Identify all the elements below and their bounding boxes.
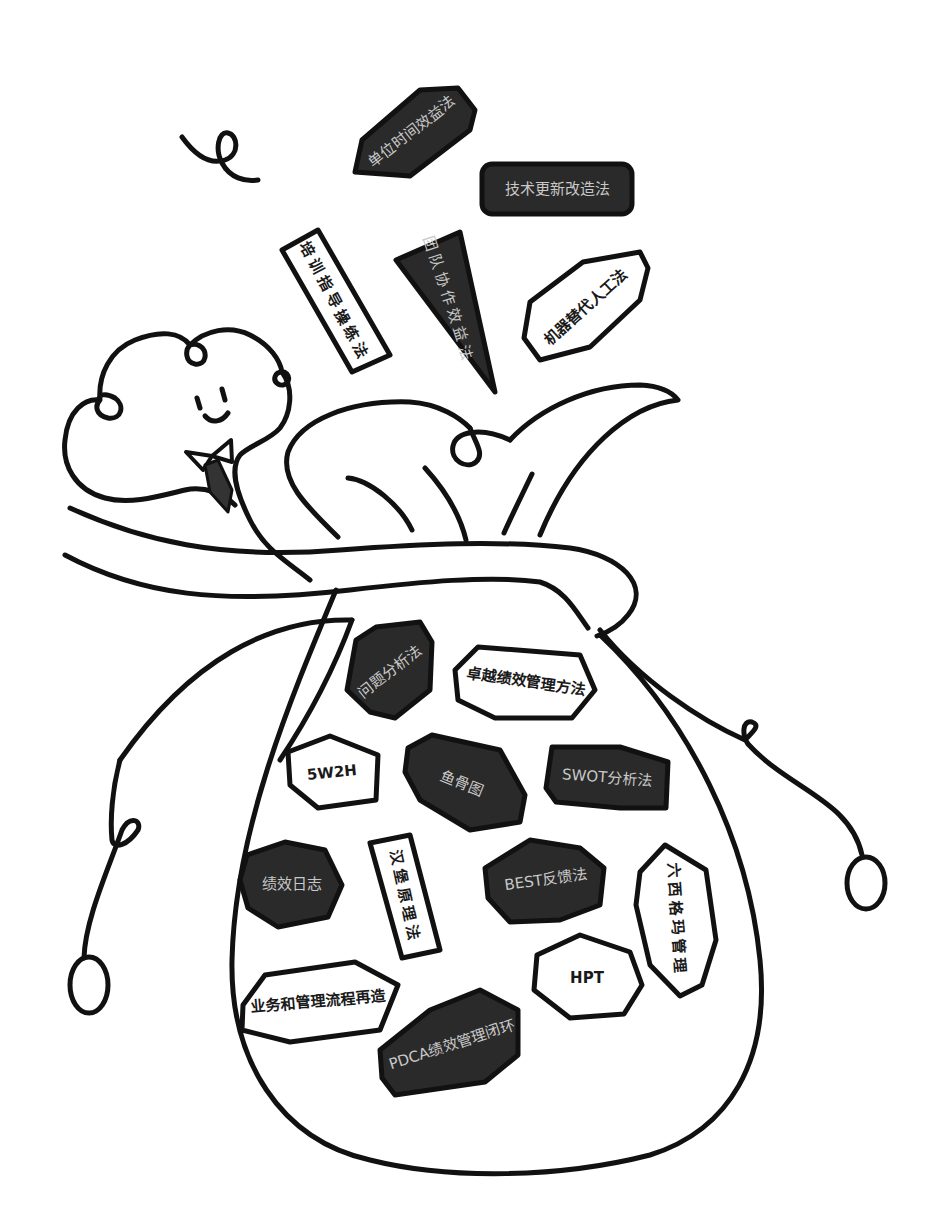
squiggle-decoration: [182, 133, 258, 181]
method-label: 绩效日志: [262, 875, 322, 893]
method-unit-time-benefit[interactable]: 单位时间效益法: [355, 88, 475, 176]
method-fishbone[interactable]: 鱼骨图: [405, 735, 525, 830]
method-label: HPT: [570, 969, 605, 987]
bag-band: [70, 508, 636, 636]
method-swot[interactable]: SWOT分析法: [546, 747, 668, 808]
string-left-knot: [70, 957, 108, 1013]
method-excellence-performance[interactable]: 卓越绩效管理方法: [455, 647, 595, 718]
flying-methods: 单位时间效益法 技术更新改造法 培训指导操练法 团队协作效益法 机器替代人工法: [282, 88, 648, 392]
method-machine-replacement[interactable]: 机器替代人工法: [524, 252, 648, 360]
method-team-collaboration[interactable]: 团队协作效益法: [396, 232, 495, 392]
method-best-feedback[interactable]: BEST反馈法: [485, 840, 604, 922]
string-right-knot: [847, 857, 885, 909]
eye-right: [222, 389, 225, 400]
method-hpt[interactable]: HPT: [534, 935, 642, 1018]
bag-opening: [65, 385, 678, 636]
string-right: [600, 630, 862, 855]
eye-left: [197, 398, 200, 408]
method-six-sigma[interactable]: 六西格玛管理: [636, 845, 716, 996]
method-label: 技术更新改造法: [505, 180, 610, 198]
method-training-practice[interactable]: 培训指导操练法: [282, 230, 390, 372]
method-performance-log[interactable]: 绩效日志: [240, 842, 342, 927]
method-pdca-loop[interactable]: PDCA绩效管理闭环: [380, 990, 518, 1095]
bow-tie-icon: [186, 440, 232, 512]
string-left: [84, 760, 139, 958]
mouth: [205, 413, 228, 421]
bag-methods: 问题分析法 卓越绩效管理方法 5W2H 鱼骨图 SWOT分析法 绩效日志 汉堡原…: [240, 622, 716, 1095]
method-5w2h[interactable]: 5W2H: [288, 736, 378, 808]
method-problem-analysis[interactable]: 问题分析法: [347, 622, 432, 718]
methods-bag-illustration: 单位时间效益法 技术更新改造法 培训指导操练法 团队协作效益法 机器替代人工法 …: [0, 0, 943, 1230]
method-tech-renovation[interactable]: 技术更新改造法: [482, 164, 632, 214]
method-process-reengineering[interactable]: 业务和管理流程再造: [242, 962, 398, 1042]
method-hamburger-principle[interactable]: 汉堡原理法: [370, 835, 440, 958]
